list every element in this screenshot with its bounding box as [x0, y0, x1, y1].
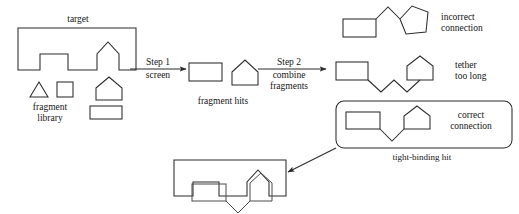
correct-rectangle-shape [346, 112, 380, 129]
fragment-triangle-shape [30, 82, 48, 97]
incorrect-tether-path [376, 7, 400, 19]
label-correct-connection: correct connection [434, 110, 508, 132]
target-protein-shape [18, 28, 136, 70]
label-fragment-library: fragment library [14, 102, 86, 124]
figure-canvas: target fragment library Step 1 screen fr… [0, 0, 519, 214]
bound-complex-arrow [288, 148, 336, 172]
hit-rectangle-shape [189, 63, 222, 81]
label-incorrect-connection: incorrect connection [441, 12, 515, 34]
label-tether-too-long: tether too long [455, 60, 517, 82]
long-tether-rectangle-shape [336, 62, 368, 80]
bound-complex-target-shape [174, 160, 286, 196]
bound-rectangle-shape [192, 184, 226, 201]
incorrect-pentagon-shape [400, 6, 428, 34]
label-fragment-hits: fragment hits [178, 96, 268, 107]
long-tether-pentagon-shape [407, 56, 433, 80]
label-tight-binding-hit: tight-binding hit [357, 152, 487, 163]
label-step2-title: Step 2 [259, 57, 319, 68]
label-target: target [38, 14, 118, 25]
fragment-square-shape [57, 82, 73, 97]
fragment-pentagon-shape [96, 77, 122, 100]
correct-pentagon-shape [404, 106, 430, 129]
label-step2-subtitle: combine fragments [255, 70, 323, 92]
long-tether-linker-path [368, 80, 420, 92]
bound-tether-path [226, 201, 250, 213]
fragment-rectangle-shape [90, 106, 122, 119]
label-step1-subtitle: screen [130, 70, 186, 81]
correct-tether-path [380, 129, 404, 141]
label-step1-title: Step 1 [130, 57, 186, 68]
incorrect-rectangle-shape [343, 19, 376, 37]
